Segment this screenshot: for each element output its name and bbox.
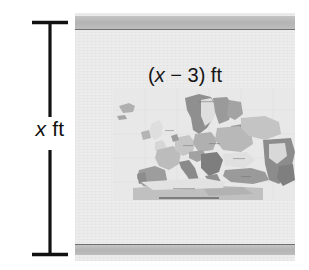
- map-caption-bar: [159, 197, 219, 199]
- height-dimension-group: x ft: [0, 0, 75, 270]
- geometry-figure: x ft (x − 3) ft: [0, 0, 309, 270]
- height-label-unit: ft: [46, 117, 64, 140]
- width-label-close-paren-unit: ) ft: [199, 64, 222, 86]
- height-label-variable: x: [36, 117, 47, 140]
- width-label-operator: −: [165, 64, 188, 86]
- photograph: (x − 3) ft: [75, 13, 295, 261]
- europe-map: [113, 88, 295, 200]
- photo-bottom-band: [75, 244, 295, 255]
- width-label-variable: x: [155, 64, 165, 86]
- width-label-open-paren: (: [148, 64, 155, 86]
- width-dimension-label: (x − 3) ft: [75, 65, 295, 85]
- width-label-value: 3: [188, 64, 199, 86]
- photo-top-band: [75, 16, 295, 30]
- europe-map-graphic: [113, 88, 295, 200]
